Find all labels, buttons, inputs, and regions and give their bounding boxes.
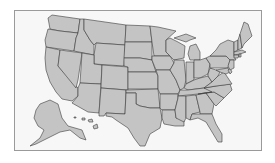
state-co: Colorado	[101, 65, 128, 90]
state-nd: North Dakota	[125, 25, 152, 42]
state-nm: New Mexico	[99, 88, 126, 116]
state-oh: Ohio	[194, 58, 210, 78]
state-sd: South Dakota	[124, 42, 152, 60]
us-states-map: WashingtonOregonCaliforniaIdahoNevadaMon…	[0, 0, 275, 163]
state-ne: Nebraska	[124, 58, 156, 72]
state-hi: Hawaii	[74, 117, 98, 129]
state-ri: Rhode Island	[239, 54, 241, 57]
state-ia: Iowa	[152, 56, 174, 70]
state-ak: Alaska	[30, 100, 86, 146]
state-fl: Florida	[190, 114, 222, 142]
state-ks: Kansas	[128, 72, 158, 89]
state-wy: Wyoming	[94, 43, 125, 66]
state-me: Maine	[240, 22, 252, 48]
state-ct: Connecticut	[234, 55, 239, 58]
states-layer: WashingtonOregonCaliforniaIdahoNevadaMon…	[30, 15, 252, 146]
state-vt: Vermont	[234, 40, 238, 52]
